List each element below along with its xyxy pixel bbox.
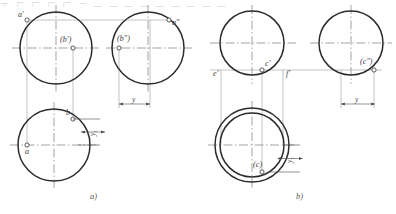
panel-a-group bbox=[10, 5, 192, 188]
dimension-label-y-a: y bbox=[132, 96, 135, 104]
label-a-prime: a′ bbox=[18, 11, 24, 19]
label-b: b bbox=[66, 109, 70, 117]
label-c-prime: c′ bbox=[265, 60, 271, 68]
panel-a-front-centerlines bbox=[12, 5, 100, 92]
label-b-double-prime: (b″) bbox=[117, 35, 130, 43]
label-a-double-prime: a″ bbox=[172, 19, 180, 27]
dimension-label-y1-a: y₁ bbox=[89, 130, 97, 136]
panel-b-projection-lines bbox=[210, 70, 382, 172]
point-marker-c-prime bbox=[260, 68, 264, 72]
panel-b-group bbox=[208, 5, 392, 189]
engineering-drawing-figure: 工 厂 厂 厂 厂 二 一 一 一 一 一 一 一 一 一 bbox=[0, 0, 396, 214]
dimension-label-y1-b: y₁ bbox=[286, 157, 294, 163]
label-c: (c) bbox=[253, 161, 262, 169]
point-marker-a-double-prime bbox=[167, 18, 171, 22]
label-c-double-prime: (c″) bbox=[360, 58, 373, 66]
caption-panel-b: b) bbox=[296, 192, 303, 201]
label-e-prime: e′ bbox=[213, 70, 219, 78]
label-a: a bbox=[25, 148, 29, 156]
caption-panel-a: a) bbox=[90, 192, 97, 201]
label-f-prime: f′ bbox=[286, 70, 290, 78]
point-marker-b-double-prime bbox=[117, 46, 121, 50]
point-marker-b-prime bbox=[71, 46, 75, 50]
point-marker-c bbox=[260, 170, 264, 174]
panel-b-side-centerlines bbox=[310, 5, 392, 84]
drawing-canvas bbox=[0, 0, 396, 214]
point-marker-c-double-prime bbox=[372, 68, 376, 72]
dimension-label-y-b: y bbox=[355, 96, 358, 104]
label-b-prime: (b′) bbox=[60, 36, 71, 44]
point-marker-a-prime bbox=[25, 18, 29, 22]
